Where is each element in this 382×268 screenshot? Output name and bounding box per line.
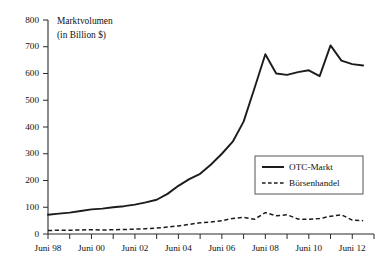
x-tick-label: Juni 08 [252,243,279,253]
x-axis-labels: Juni 98Juni 00Juni 02Juni 04Juni 06Juni … [35,243,366,253]
x-tick-label: Juni 98 [35,243,62,253]
x-axis: Juni 98Juni 00Juni 02Juni 04Juni 06Juni … [35,234,374,253]
line-chart: 0100200300400500600700800 Juni 98Juni 00… [0,0,382,268]
x-tick-label: Juni 12 [339,243,366,253]
x-tick-label: Juni 06 [208,243,235,253]
y-axis-title-line1: Marktvolumen [57,16,113,26]
x-tick-label: Juni 04 [165,243,192,253]
y-tick-label: 100 [25,202,39,212]
y-tick-label: 200 [25,175,39,185]
y-axis: 0100200300400500600700800 [25,15,48,239]
chart-legend: OTC-Markt Börsenhandel [255,156,363,194]
y-tick-label: 500 [25,95,39,105]
legend-label-otc-markt: OTC-Markt [289,162,333,172]
x-tick-label: Juni 10 [295,243,322,253]
x-tick-label: Juni 00 [78,243,105,253]
series-line-boersenhandel [48,213,363,231]
x-tick-label: Juni 02 [122,243,149,253]
y-axis-ticks: 0100200300400500600700800 [25,15,48,239]
y-tick-label: 700 [25,41,39,51]
y-tick-label: 400 [25,122,39,132]
y-tick-label: 800 [25,15,39,25]
legend-label-boersenhandel: Börsenhandel [289,178,340,188]
y-tick-label: 300 [25,148,39,158]
y-axis-title-line2: (in Billion $) [57,30,106,41]
chart-container: 0100200300400500600700800 Juni 98Juni 00… [0,0,382,268]
y-tick-label: 0 [34,229,39,239]
x-axis-ticks [48,234,374,239]
y-tick-label: 600 [25,68,39,78]
